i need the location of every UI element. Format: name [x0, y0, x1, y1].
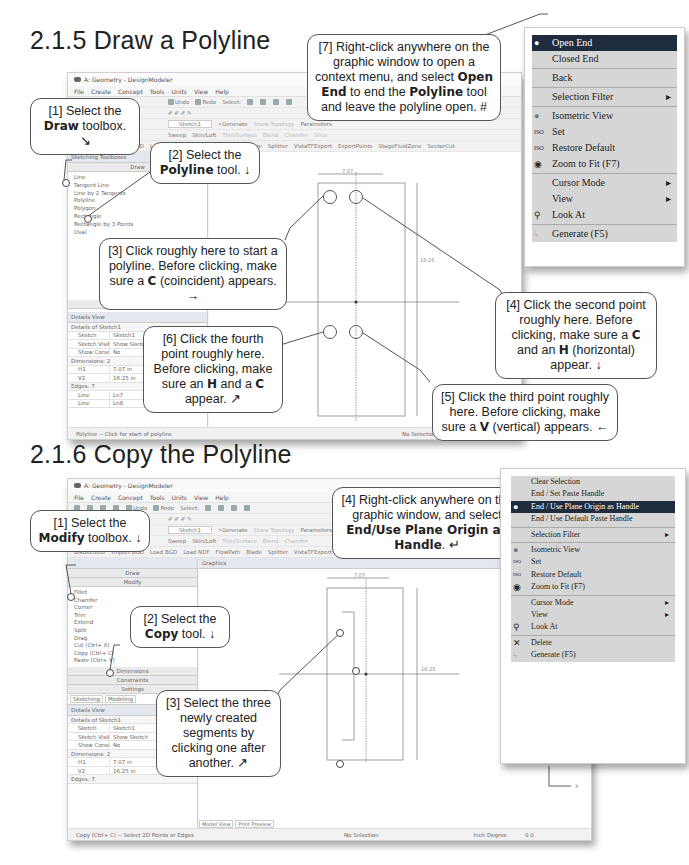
menu-item-end-use-plane-origin[interactable]: ●End / Use Plane Origin as Handle: [511, 501, 675, 513]
filter2-icon[interactable]: [286, 99, 292, 105]
slice-button[interactable]: Slice: [314, 132, 327, 138]
menu-item-delete[interactable]: ✕Delete: [511, 637, 675, 649]
tab-model-view[interactable]: Model View: [199, 820, 233, 828]
menu-item-view[interactable]: View▸: [511, 609, 675, 621]
chamfer-button[interactable]: Chamfer: [284, 132, 308, 138]
tool-fillet[interactable]: Fillet: [74, 589, 191, 597]
parameters-button[interactable]: Parameters: [300, 527, 331, 533]
menu-concept[interactable]: Concept: [118, 494, 143, 501]
tool-line-by-2-tangents[interactable]: Line by 2 Tangents: [74, 190, 201, 198]
menu-item-zoom-to-fit[interactable]: ◉Zoom to Fit (F7): [532, 156, 677, 172]
menu-item-look-at[interactable]: ⚲Look At: [532, 207, 677, 223]
thinsurface-button[interactable]: Thin/Surface: [222, 538, 257, 544]
load-bgd-button[interactable]: Load BGD: [150, 549, 177, 555]
blade-button[interactable]: Blade: [246, 549, 262, 555]
menu-item-set[interactable]: ISOSet: [532, 124, 677, 140]
filter-icon[interactable]: [273, 99, 279, 105]
menu-help[interactable]: Help: [215, 88, 229, 95]
menu-tools[interactable]: Tools: [150, 88, 165, 95]
stagefluidzone-button[interactable]: StageFluidZone: [378, 143, 421, 149]
menu-item-end-use-default-handle[interactable]: End / Use Default Paste Handle: [511, 513, 675, 525]
redo-button[interactable]: Redo: [153, 505, 174, 511]
menu-item-selection-filter[interactable]: Selection Filter▸: [532, 89, 677, 105]
modify-toolbox-button[interactable]: Modify: [68, 578, 197, 587]
sketch-tools-icons[interactable]: ✐ ✐ ✐ ✎: [168, 110, 192, 116]
tool-rectangle-3pt[interactable]: Rectangle by 3 Points: [74, 221, 201, 229]
tab-sketching[interactable]: Sketching: [70, 695, 103, 703]
splitter-button[interactable]: Splitter: [268, 143, 288, 149]
menu-item-restore-default[interactable]: ISORestore Default: [511, 569, 675, 581]
menu-item-end-set-paste-handle[interactable]: End / Set Paste Handle: [511, 488, 675, 500]
menu-file[interactable]: File: [74, 494, 84, 501]
menu-item-isometric-view[interactable]: ●Isometric View: [511, 544, 675, 556]
menu-create[interactable]: Create: [91, 88, 111, 95]
flowpath-button[interactable]: FlowPath: [216, 549, 241, 555]
menu-tools[interactable]: Tools: [150, 494, 165, 501]
draw-toolbox-button[interactable]: Draw: [68, 569, 197, 578]
tool-copy[interactable]: Copy (Ctrl+ C): [74, 650, 191, 658]
skinloft-button[interactable]: Skin/Loft: [192, 132, 216, 138]
menu-units[interactable]: Units: [172, 494, 187, 501]
menu-help[interactable]: Help: [215, 494, 229, 501]
show-topology-button[interactable]: Show Topology: [254, 121, 295, 127]
menu-item-cursor-mode[interactable]: Cursor Mode▸: [532, 175, 677, 191]
tool-rectangle[interactable]: Rectangle: [74, 213, 201, 221]
select-mode[interactable]: Select:: [180, 505, 199, 511]
tab-print-preview[interactable]: Print Preview: [235, 820, 274, 828]
vistatfexport-button[interactable]: VistaTFExport: [294, 143, 332, 149]
vistatfexport-button[interactable]: VistaTFExport: [294, 549, 332, 555]
menu-item-closed-end[interactable]: Closed End: [532, 51, 677, 67]
tool-polyline[interactable]: Polyline: [74, 197, 201, 205]
load-ndf-button[interactable]: Load NDF: [183, 549, 209, 555]
menu-item-isometric-view[interactable]: ●Isometric View: [532, 108, 677, 124]
tab-modeling[interactable]: Modeling: [105, 695, 136, 703]
menu-separator: [532, 87, 677, 88]
menu-item-zoom-to-fit[interactable]: ◉Zoom to Fit (F7): [511, 581, 675, 593]
sweep-button[interactable]: Sweep: [168, 538, 186, 544]
generate-button[interactable]: ⚡Generate: [218, 527, 248, 533]
sketch-tools-icons[interactable]: ✐ ✐ ✐ ✎: [168, 516, 192, 522]
chamfer-button[interactable]: Chamfer: [284, 538, 308, 544]
menu-item-restore-default[interactable]: ISORestore Default: [532, 140, 677, 156]
splitter-button[interactable]: Splitter: [268, 549, 288, 555]
dimensions-toolbox-button[interactable]: Dimensions: [68, 667, 197, 676]
blend-button[interactable]: Blend: [263, 132, 279, 138]
menu-item-clear-selection[interactable]: Clear Selection: [511, 476, 675, 488]
menu-item-back[interactable]: Back: [532, 70, 677, 86]
menu-item-cursor-mode[interactable]: Cursor Mode▸: [511, 597, 675, 609]
menu-create[interactable]: Create: [91, 494, 111, 501]
select-icon[interactable]: [247, 99, 253, 105]
menu-item-set[interactable]: ISOSet: [511, 556, 675, 568]
menu-concept[interactable]: Concept: [118, 88, 143, 95]
select-mode[interactable]: Select:: [222, 99, 241, 105]
menu-view[interactable]: View: [194, 88, 208, 95]
sectorcut-button[interactable]: SectorCut: [428, 143, 455, 149]
tool-polygon[interactable]: Polygon: [74, 205, 201, 213]
sketch-select[interactable]: Sketch1: [168, 526, 212, 534]
menu-item-open-end[interactable]: ●Open End: [532, 35, 677, 51]
menu-item-look-at[interactable]: ⚲Look At: [511, 621, 675, 633]
menu-units[interactable]: Units: [172, 88, 187, 95]
menu-item-generate[interactable]: ϟGenerate (F5): [511, 649, 675, 661]
menu-item-generate[interactable]: ϟGenerate (F5): [532, 226, 677, 242]
menu-file[interactable]: File: [74, 88, 84, 95]
redo-button[interactable]: Redo: [195, 99, 216, 105]
exportpoints-button[interactable]: ExportPoints: [338, 143, 373, 149]
sweep-button[interactable]: Sweep: [168, 132, 186, 138]
menu-item-view[interactable]: View▸: [532, 191, 677, 207]
show-topology-button[interactable]: Show Topology: [254, 527, 295, 533]
generate-button[interactable]: ⚡Generate: [218, 121, 248, 127]
tool-oval[interactable]: Oval: [74, 229, 201, 237]
thinsurface-button[interactable]: Thin/Surface: [222, 132, 257, 138]
constraints-toolbox-button[interactable]: Constraints: [68, 676, 197, 685]
menu-item-selection-filter[interactable]: Selection Filter▸: [511, 529, 675, 541]
menu-view[interactable]: View: [194, 494, 208, 501]
tool-chamfer[interactable]: Chamfer: [74, 597, 191, 605]
sketch-select[interactable]: Sketch1: [168, 120, 212, 128]
parameters-button[interactable]: Parameters: [300, 121, 331, 127]
blend-button[interactable]: Blend: [263, 538, 279, 544]
tool-paste[interactable]: Paste (Ctrl+ V): [74, 657, 191, 665]
skinloft-button[interactable]: Skin/Loft: [192, 538, 216, 544]
select-face-icon[interactable]: [260, 99, 266, 105]
undo-button[interactable]: Undo: [168, 99, 189, 105]
